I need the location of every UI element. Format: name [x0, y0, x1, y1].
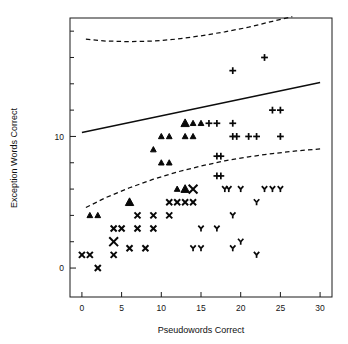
data-point-y-shape [190, 245, 195, 251]
data-point-y-shape [230, 212, 235, 218]
data-point-x-cross [111, 226, 117, 232]
x-tick-label: 10 [157, 303, 167, 313]
x-tick-label: 0 [80, 303, 85, 313]
data-point-y-shape [262, 186, 267, 192]
y-tick-label: 10 [55, 132, 65, 142]
data-point-x-cross [127, 245, 133, 251]
data-point-triangle-up [166, 133, 172, 138]
x-tick-label: 20 [236, 303, 246, 313]
data-point-x-cross [142, 245, 148, 251]
x-axis-title: Pseudowords Correct [158, 325, 245, 335]
data-point-triangle-up [151, 147, 157, 152]
data-point-plus [206, 120, 213, 127]
upper-band [86, 17, 292, 42]
data-point-plus [245, 133, 252, 140]
data-point-plus [213, 120, 220, 127]
data-point-y-shape [254, 252, 259, 258]
data-point-triangle-up [125, 198, 133, 206]
data-point-plus [253, 133, 260, 140]
data-markers-layer [79, 54, 284, 271]
data-point-y-shape [198, 245, 203, 251]
data-point-plus [261, 54, 268, 61]
data-point-triangle-up [190, 120, 196, 125]
data-point-triangle-up [198, 120, 204, 125]
data-point-y-shape [278, 186, 283, 192]
data-point-x-cross [174, 199, 180, 205]
data-point-triangle-up [181, 185, 189, 193]
data-point-x-cross [87, 252, 93, 258]
lower-band [86, 149, 320, 208]
y-tick-label: 0 [59, 263, 64, 273]
data-point-x-cross [95, 265, 101, 271]
data-point-x-cross [79, 252, 85, 258]
data-point-x-cross [111, 252, 117, 258]
data-point-plus [217, 173, 224, 180]
data-point-x-cross [166, 199, 172, 205]
x-tick-label: 5 [119, 303, 124, 313]
data-point-x-cross [119, 226, 125, 232]
data-point-x-cross [189, 185, 198, 194]
data-point-x-cross [134, 212, 140, 218]
data-point-y-shape [270, 186, 275, 192]
data-point-triangle-up [166, 160, 172, 165]
data-point-triangle-up [87, 212, 93, 217]
data-point-x-cross [150, 226, 156, 232]
data-point-plus [277, 133, 284, 140]
data-point-x-cross [166, 212, 172, 218]
data-point-triangle-up [95, 212, 101, 217]
data-point-y-shape [226, 186, 231, 192]
data-point-plus [229, 67, 236, 74]
data-point-x-cross [190, 199, 196, 205]
data-point-plus [217, 153, 224, 160]
data-point-y-shape [214, 226, 219, 232]
data-point-triangle-up [190, 133, 196, 138]
data-point-plus [229, 120, 236, 127]
data-point-triangle-up [158, 133, 164, 138]
data-point-x-cross [182, 199, 188, 205]
y-axis-title: Exception Words Correct [9, 108, 19, 208]
scatter-plot-figure: 051015202530 010 Pseudowords Correct Exc… [0, 0, 348, 344]
data-point-y-shape [238, 186, 243, 192]
plot-canvas: 051015202530 010 Pseudowords Correct Exc… [0, 0, 348, 344]
data-point-y-shape [238, 239, 243, 245]
data-point-y-shape [254, 199, 259, 205]
plot-frame [70, 18, 332, 297]
data-point-y-shape [198, 226, 203, 232]
fit-lines-layer [82, 17, 320, 208]
data-point-plus [277, 107, 284, 114]
data-point-y-shape [230, 245, 235, 251]
data-point-triangle-up [182, 133, 188, 138]
data-point-x-cross [134, 226, 140, 232]
x-axis-ticks: 051015202530 [80, 292, 326, 313]
x-tick-label: 30 [315, 303, 325, 313]
data-point-triangle-up [174, 186, 180, 191]
data-point-x-cross [150, 212, 156, 218]
data-point-triangle-up [158, 160, 164, 165]
x-tick-label: 15 [196, 303, 206, 313]
y-axis-ticks: 010 [55, 31, 76, 273]
data-point-plus [233, 133, 240, 140]
data-point-triangle-up [181, 119, 189, 127]
data-point-x-cross [109, 237, 118, 246]
x-tick-label: 25 [276, 303, 286, 313]
data-point-plus [269, 107, 276, 114]
